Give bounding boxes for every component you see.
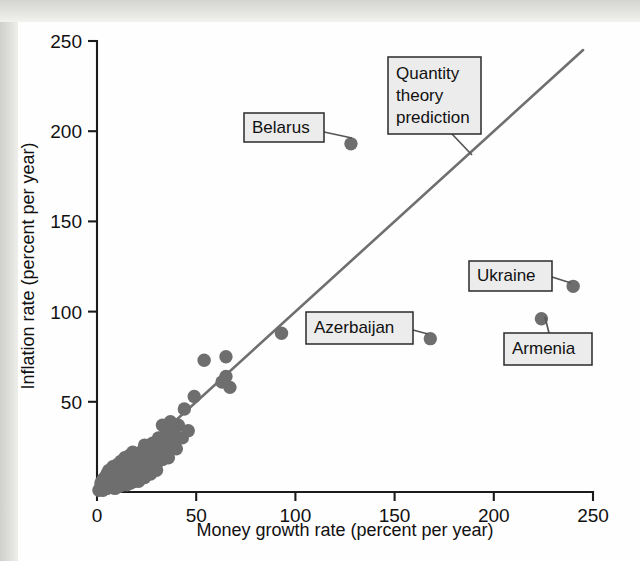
callout-text: Azerbaijan — [314, 318, 394, 337]
data-point — [132, 474, 145, 487]
callout-text: Quantity — [396, 64, 460, 83]
data-point — [178, 402, 191, 415]
y-axis-ticks: 50100150200250 — [50, 31, 97, 413]
callout-azerbaijan[interactable]: Azerbaijan — [306, 312, 428, 344]
data-point — [197, 354, 210, 367]
x-axis-title: Money growth rate (percent per year) — [196, 520, 493, 540]
callout-leader-line — [324, 132, 352, 138]
y-tick-label: 50 — [61, 392, 82, 413]
data-point — [106, 460, 119, 473]
callout-text: prediction — [396, 108, 470, 127]
data-point — [275, 327, 288, 340]
data-point — [219, 350, 232, 363]
y-axis-title: Inflation rate (percent per year) — [18, 142, 38, 389]
callout-ukraine[interactable]: Ukraine — [469, 261, 571, 291]
data-point — [223, 381, 236, 394]
callout-quantity-theory[interactable]: Quantitytheoryprediction — [388, 57, 481, 155]
figure-container: 50100150200250 050100150200250 Money gro… — [0, 0, 640, 561]
data-point — [158, 444, 171, 457]
data-point — [126, 446, 139, 459]
callout-leader-line — [452, 134, 472, 155]
y-tick-label: 100 — [50, 302, 82, 323]
callout-armenia[interactable]: Armenia — [504, 317, 592, 365]
data-point — [120, 478, 133, 491]
y-tick-label: 150 — [50, 211, 82, 232]
y-tick-label: 250 — [50, 31, 82, 52]
data-point — [182, 424, 195, 437]
x-tick-label: 250 — [577, 505, 609, 526]
callout-leader-line — [552, 277, 571, 283]
scatter-plot: 50100150200250 050100150200250 Money gro… — [0, 0, 640, 561]
data-point — [142, 447, 155, 460]
x-tick-label: 0 — [92, 505, 103, 526]
callout-leader-line — [413, 330, 428, 334]
callout-text: Armenia — [512, 339, 576, 358]
callout-text: Ukraine — [477, 266, 536, 285]
callout-belarus[interactable]: Belarus — [244, 113, 352, 142]
y-tick-label: 200 — [50, 121, 82, 142]
callout-text: theory — [396, 86, 444, 105]
data-point — [188, 390, 201, 403]
data-point — [344, 137, 357, 150]
data-point — [94, 480, 107, 493]
callout-text: Belarus — [252, 118, 310, 137]
